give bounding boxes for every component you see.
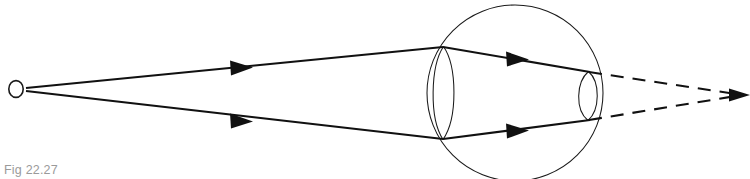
emergent-ray-lower-dashed (589, 96, 736, 120)
right-surface-front-arc (579, 72, 589, 121)
object-point-o-icon (9, 81, 23, 98)
internal-ray-upper-arrowhead (506, 52, 529, 67)
figure-container: Fig 22.27 (0, 0, 750, 179)
left-surface-front-arc (433, 47, 443, 140)
right-surface-back-arc (588, 72, 597, 121)
incident-ray-lower (26, 91, 443, 139)
internal-ray-lower-arrowhead (506, 124, 529, 139)
image-point-arrowhead (729, 89, 750, 102)
sphere-outline (427, 5, 603, 179)
emergent-ray-upper-dashed (589, 72, 736, 94)
incident-ray-upper-arrowhead (230, 61, 253, 76)
figure-caption: Fig 22.27 (4, 163, 58, 177)
left-surface-back-arc (443, 47, 454, 140)
optics-ray-diagram (0, 0, 750, 179)
